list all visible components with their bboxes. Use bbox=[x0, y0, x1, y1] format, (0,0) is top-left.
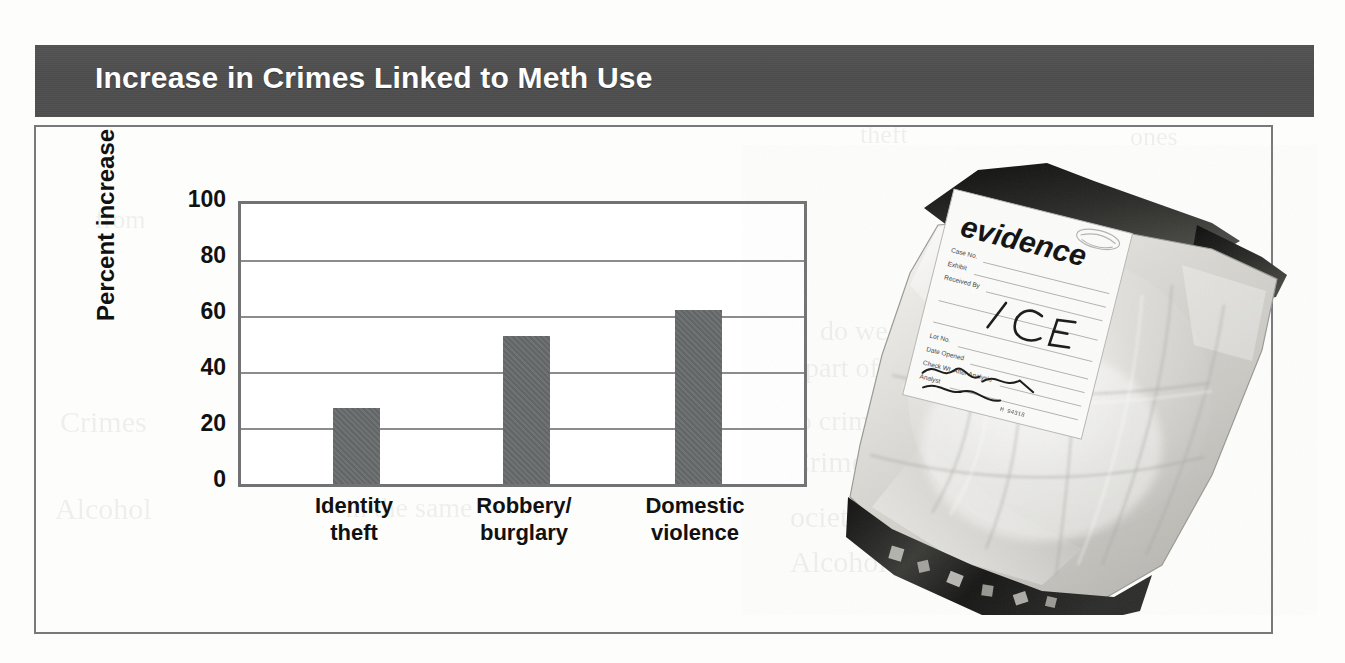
page-title: Increase in Crimes Linked to Meth Use bbox=[95, 61, 653, 95]
figure-container: Increase in Crimes Linked to Meth Use Pe… bbox=[34, 45, 1271, 631]
x-axis-category-label: Robbery/burglary bbox=[439, 493, 609, 547]
y-axis-tick: 60 bbox=[124, 298, 226, 325]
evidence-bag-illustration: evidence Case No. Exhibit Received By Lo… bbox=[742, 145, 1317, 615]
plot-area bbox=[238, 201, 807, 487]
bar bbox=[503, 336, 550, 484]
x-axis-category-line: Identity bbox=[269, 493, 439, 520]
bar bbox=[333, 408, 380, 484]
y-axis-tick: 0 bbox=[124, 466, 226, 493]
figure-panel: Percent increase 020406080100 Identityth… bbox=[34, 125, 1273, 634]
x-axis-category-labels: IdentitytheftRobbery/burglaryDomesticvio… bbox=[238, 493, 801, 573]
y-axis-tick: 20 bbox=[124, 410, 226, 437]
bar-series bbox=[241, 204, 804, 484]
y-axis-tick-labels: 020406080100 bbox=[124, 201, 226, 481]
x-axis-category-line: theft bbox=[269, 520, 439, 547]
x-axis-category-line: burglary bbox=[439, 520, 609, 547]
y-axis-tick: 40 bbox=[124, 354, 226, 381]
evidence-bag-photo: evidence Case No. Exhibit Received By Lo… bbox=[742, 145, 1317, 615]
x-axis-category-line: Robbery/ bbox=[439, 493, 609, 520]
bar-chart: Percent increase 020406080100 Identityth… bbox=[96, 201, 826, 601]
figure-title-bar: Increase in Crimes Linked to Meth Use bbox=[35, 45, 1314, 117]
y-axis-label: Percent increase bbox=[92, 129, 120, 321]
y-axis-tick: 100 bbox=[124, 186, 226, 213]
y-axis-tick: 80 bbox=[124, 242, 226, 269]
bar bbox=[675, 310, 722, 484]
x-axis-category-label: Identitytheft bbox=[269, 493, 439, 547]
